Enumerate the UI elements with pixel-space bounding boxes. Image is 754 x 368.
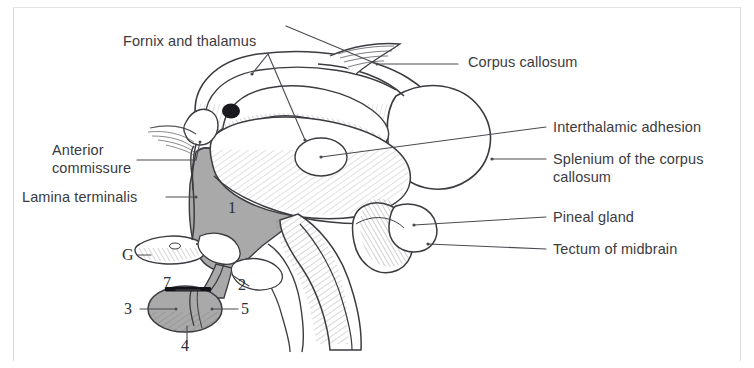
callout-3: 3 (124, 301, 132, 317)
callout-g: G (122, 247, 134, 263)
figure-root: Fornix and thalamus Corpus callosum Inte… (0, 0, 754, 368)
callout-5: 5 (241, 301, 249, 317)
tectum-midbrain-shape (352, 198, 437, 278)
pituitary-gland-shape (148, 286, 224, 336)
callout-1: 1 (228, 200, 236, 216)
diaphragma-sellae-bar (165, 287, 211, 292)
label-lamina-terminalis: Lamina terminalis (22, 189, 137, 206)
leader-tectum (428, 244, 546, 249)
label-fornix-and-thalamus: Fornix and thalamus (123, 33, 256, 50)
label-corpus-callosum: Corpus callosum (468, 54, 578, 71)
label-splenium-line2: callosum (553, 169, 611, 186)
label-anterior-commissure-line1: Anterior (52, 142, 104, 159)
callout-7: 7 (163, 275, 171, 291)
label-pineal-gland: Pineal gland (553, 209, 634, 226)
label-interthalamic-adhesion: Interthalamic adhesion (553, 119, 701, 136)
pineal-gland-shape (389, 204, 437, 252)
callout-2: 2 (238, 277, 246, 293)
brain-midsagittal-illustration (0, 0, 754, 368)
interventricular-foramen-mark (222, 104, 240, 119)
label-anterior-commissure-line2: commissure (52, 160, 131, 177)
label-tectum-of-midbrain: Tectum of midbrain (553, 241, 677, 258)
footer-caption (120, 352, 680, 364)
label-splenium-line1: Splenium of the corpus (553, 151, 704, 168)
